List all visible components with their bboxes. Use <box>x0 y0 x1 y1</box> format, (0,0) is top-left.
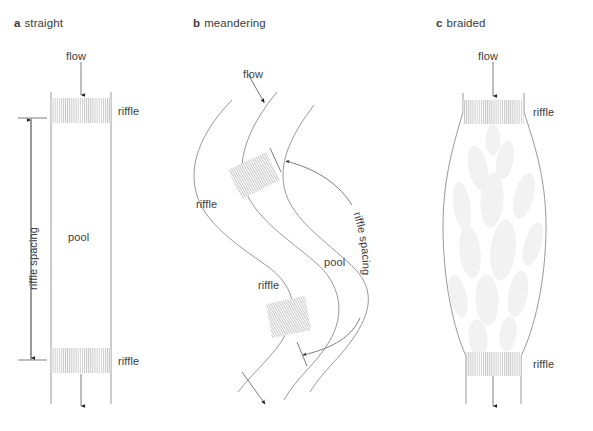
panel-b-meandering: riffle spacing <box>194 74 373 404</box>
meander-spacing-label: riffle spacing <box>352 210 373 275</box>
meander-riffle-upper-label: riffle <box>196 198 217 210</box>
meander-riffle-lower-label: riffle <box>258 279 279 291</box>
straight-riffle-upper-label: riffle <box>118 105 139 117</box>
braided-riffle-lower-band <box>466 352 520 376</box>
meander-pool-label: pool <box>324 256 345 268</box>
braided-bar-group <box>445 125 547 357</box>
meander-riffle-lower-band <box>266 296 311 338</box>
straight-riffle-upper-band <box>51 98 110 123</box>
meander-right-bank <box>242 92 339 400</box>
straight-flow-label: flow <box>66 50 86 62</box>
straight-pool-label: pool <box>68 231 89 243</box>
meander-spacing-arrow-up <box>286 161 352 205</box>
meander-flow-label: flow <box>243 68 263 80</box>
straight-riffle-lower-band <box>51 348 110 373</box>
river-channel-planform-figure: astraight bmeandering cbraided <box>0 0 593 431</box>
meander-outer-bank <box>283 105 368 392</box>
braided-riffle-upper-band <box>463 100 523 124</box>
panel-c-braided <box>443 62 547 406</box>
braided-riffle-lower-label: riffle <box>533 358 554 370</box>
meander-left-bank <box>194 100 293 392</box>
braided-flow-label: flow <box>478 50 498 62</box>
straight-riffle-lower-label: riffle <box>118 355 139 367</box>
meander-spacing-arrow-down <box>303 318 360 355</box>
braided-riffle-upper-label: riffle <box>533 106 554 118</box>
meander-riffle-upper-band <box>228 152 280 199</box>
figure-canvas: riffle spacing <box>0 0 593 431</box>
straight-spacing-label: riffle spacing <box>27 227 39 290</box>
meander-flow-arrow-bottom <box>242 372 265 404</box>
